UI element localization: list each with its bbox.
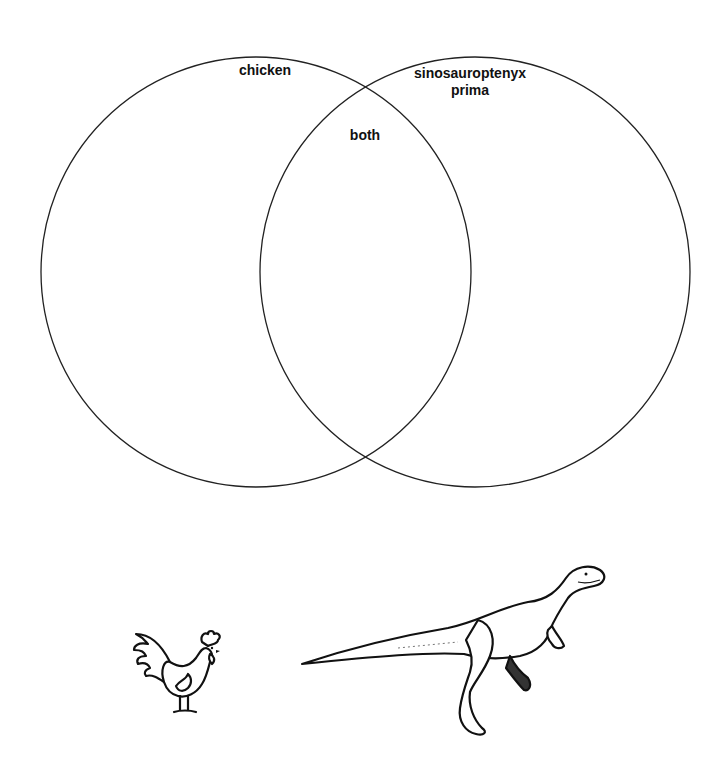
venn-circle-dinosaur (260, 57, 690, 487)
set-label-dinosaur: sinosauroptenyx prima (400, 65, 540, 99)
set-label-dinosaur-line1: sinosauroptenyx (400, 65, 540, 82)
chicken-illustration-icon (130, 612, 225, 722)
set-label-dinosaur-line2: prima (400, 82, 540, 99)
venn-circle-chicken (41, 57, 471, 487)
set-label-chicken: chicken (220, 62, 310, 79)
intersection-label: both (330, 127, 400, 144)
dinosaur-illustration-icon (298, 560, 610, 760)
